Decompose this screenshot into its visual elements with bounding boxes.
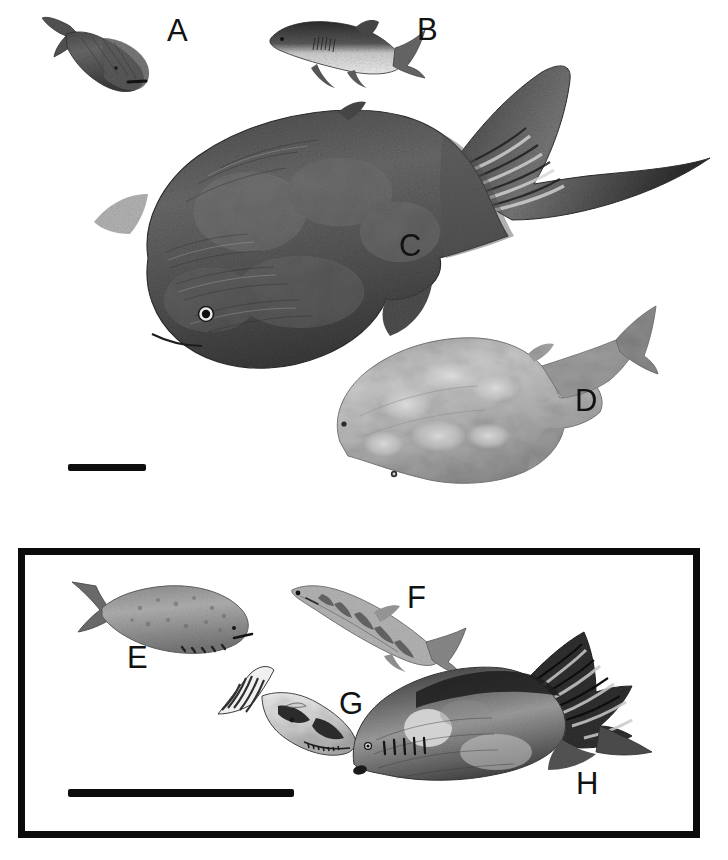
upper-scale-bar xyxy=(68,464,146,471)
specimen-h-illustration xyxy=(346,630,656,805)
lower-scale-bar xyxy=(68,789,294,797)
label-c: C xyxy=(399,230,421,261)
label-f: F xyxy=(407,582,426,613)
label-b: B xyxy=(417,14,438,45)
label-h: H xyxy=(576,768,598,799)
specimen-d-illustration xyxy=(320,296,660,506)
label-e: E xyxy=(127,642,148,673)
label-a: A xyxy=(167,15,188,46)
label-d: D xyxy=(575,385,597,416)
specimen-e-illustration xyxy=(62,568,262,668)
figure-plate: A xyxy=(0,0,728,860)
